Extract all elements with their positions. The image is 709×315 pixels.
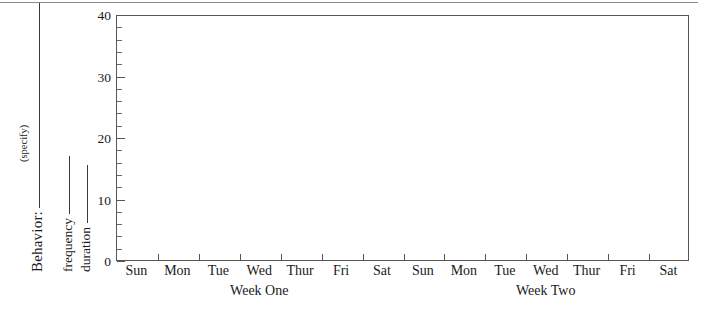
y-axis-minor-tick: [117, 27, 122, 28]
duration-label: duration: [78, 227, 93, 272]
x-axis-tick: [322, 254, 323, 260]
x-axis-day-label: Mon: [164, 263, 190, 279]
frequency-field[interactable]: frequency: [61, 156, 75, 272]
week-caption: Week Two: [516, 283, 575, 299]
frequency-label: frequency: [60, 218, 75, 272]
x-axis-day-label: Sun: [126, 263, 148, 279]
x-axis-day-label: Fri: [619, 263, 635, 279]
y-axis-tick-label: 40: [98, 8, 112, 24]
x-axis-day-label: Thur: [287, 263, 314, 279]
y-axis-minor-tick: [117, 212, 122, 213]
x-axis-tick: [444, 254, 445, 260]
y-axis-minor-tick: [117, 175, 122, 176]
x-axis-tick: [404, 254, 405, 260]
x-axis-tick: [608, 254, 609, 260]
behavior-field[interactable]: Behavior:: [30, 3, 45, 272]
x-axis-day-label: Wed: [247, 263, 272, 279]
y-axis-major-tick: [117, 261, 125, 262]
frequency-input-rule[interactable]: [69, 156, 70, 214]
y-axis-tick-label: 0: [104, 254, 111, 270]
x-axis-tick: [363, 254, 364, 260]
y-axis-minor-tick: [117, 249, 122, 250]
y-axis-tick-label: 30: [98, 70, 112, 86]
y-axis-major-tick: [117, 200, 125, 201]
y-axis-minor-tick: [117, 64, 122, 65]
behavior-chart-page: Behavior: (specify) frequency duration 0…: [0, 0, 709, 315]
x-axis-day-label: Thur: [573, 263, 600, 279]
y-axis-minor-tick: [117, 126, 122, 127]
form-label-column: Behavior: (specify) frequency duration: [0, 0, 100, 300]
y-axis-minor-tick: [117, 89, 122, 90]
x-axis-tick: [567, 254, 568, 260]
behavior-label: Behavior:: [29, 211, 45, 272]
x-axis-tick: [199, 254, 200, 260]
specify-note: (specify): [19, 125, 30, 162]
x-axis-labels: SunMonTueWedThurFriSatSunMonTueWedThurFr…: [116, 263, 689, 283]
x-axis-tick: [281, 254, 282, 260]
y-axis-minor-tick: [117, 163, 122, 164]
x-axis-day-label: Fri: [333, 263, 349, 279]
y-axis-minor-tick: [117, 40, 122, 41]
y-axis-minor-tick: [117, 150, 122, 151]
y-axis-minor-tick: [117, 236, 122, 237]
x-axis-tick: [526, 254, 527, 260]
x-axis-day-label: Sat: [660, 263, 678, 279]
duration-field[interactable]: duration: [79, 165, 93, 272]
x-axis-tick: [649, 254, 650, 260]
chart-plot-area: 010203040: [116, 15, 689, 261]
x-axis-day-label: Sun: [412, 263, 434, 279]
x-axis-day-label: Wed: [533, 263, 558, 279]
y-axis-minor-tick: [117, 224, 122, 225]
y-axis-minor-tick: [117, 187, 122, 188]
x-axis-day-label: Tue: [208, 263, 229, 279]
x-axis-day-label: Tue: [494, 263, 515, 279]
week-caption: Week One: [230, 283, 288, 299]
x-axis-tick: [485, 254, 486, 260]
behavior-input-rule[interactable]: [39, 3, 40, 208]
y-axis-minor-tick: [117, 52, 122, 53]
x-axis-tick: [158, 254, 159, 260]
y-axis-minor-tick: [117, 101, 122, 102]
y-axis-tick-label: 10: [98, 193, 112, 209]
y-axis-major-tick: [117, 15, 125, 16]
y-axis-minor-tick: [117, 113, 122, 114]
y-axis-major-tick: [117, 77, 125, 78]
x-axis-day-label: Mon: [451, 263, 477, 279]
page-top-rule: [0, 2, 698, 3]
y-axis-tick-label: 20: [98, 131, 112, 147]
y-axis-major-tick: [117, 138, 125, 139]
duration-input-rule[interactable]: [87, 165, 88, 223]
x-axis-day-label: Sat: [373, 263, 391, 279]
x-axis-tick: [240, 254, 241, 260]
